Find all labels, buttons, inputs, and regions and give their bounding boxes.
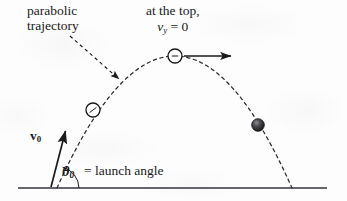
parabolic-trajectory-leader-line xyxy=(70,36,119,79)
v0-symbol: v xyxy=(30,128,37,143)
label-at-the-top: at the top, vy = 0 xyxy=(146,3,200,36)
label-launch-angle-text: = launch angle xyxy=(84,163,164,178)
vy-equation-tail: = 0 xyxy=(171,19,189,34)
ball-marker-descending xyxy=(252,119,265,132)
vy-subscript: y xyxy=(163,25,167,35)
v0-subscript: 0 xyxy=(37,134,41,144)
label-parabolic-line2: trajectory xyxy=(27,18,79,33)
theta-subscript: 0 xyxy=(70,169,75,180)
label-vy-equation: vy = 0 xyxy=(146,19,200,36)
label-parabolic-line1: parabolic xyxy=(27,3,77,18)
label-at-the-top-text: at the top, xyxy=(146,3,200,18)
projectile-trajectory-figure: parabolic trajectory at the top, vy = 0 … xyxy=(0,0,347,201)
label-launch-angle-symbol: θ0 xyxy=(62,163,74,181)
label-parabolic-trajectory: parabolic trajectory xyxy=(27,3,79,33)
theta-symbol: θ xyxy=(62,163,70,179)
label-initial-velocity: v0 xyxy=(30,128,41,145)
